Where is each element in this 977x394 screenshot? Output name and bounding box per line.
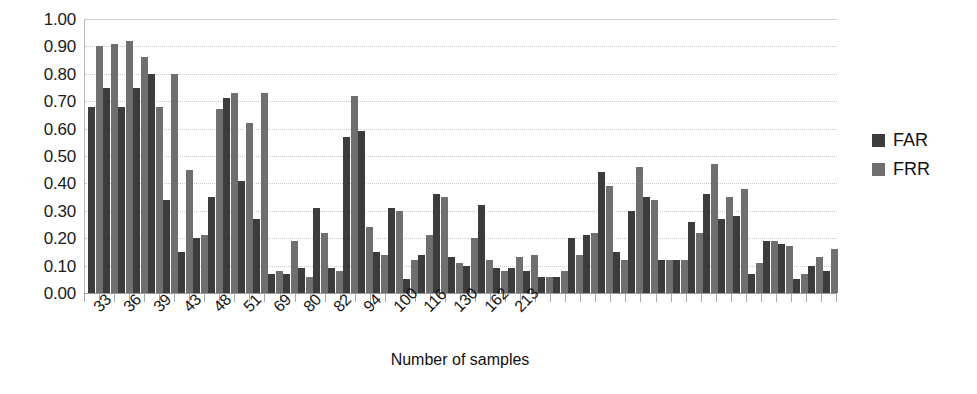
y-axis-tick-label: 0.60 [14, 120, 76, 137]
bar-frr [441, 197, 448, 293]
bar-group [343, 19, 358, 293]
bar-frr [801, 274, 808, 293]
bar-group [163, 19, 178, 293]
bar-far [718, 219, 725, 293]
bar-frr [111, 44, 118, 293]
legend-swatch-frr-icon [872, 163, 885, 176]
x-axis-tick [580, 294, 581, 302]
y-axis-tick-label: 0.40 [14, 175, 76, 192]
bar-group [733, 19, 748, 293]
x-axis-tick [761, 294, 762, 302]
bar-group [208, 19, 223, 293]
bar-group [463, 19, 478, 293]
bar-frr [321, 233, 328, 293]
bar-far [253, 219, 260, 293]
bar-group [193, 19, 208, 293]
bar-group [238, 19, 253, 293]
bar-far [148, 74, 155, 293]
x-axis-tick [821, 294, 822, 302]
x-axis-tick [144, 294, 145, 302]
bar-group [103, 19, 118, 293]
bar-frr [606, 186, 613, 293]
bar-frr [261, 93, 268, 293]
bar-group [523, 19, 538, 293]
bar-frr [381, 255, 388, 293]
bar-far [793, 279, 800, 293]
bar-frr [561, 271, 568, 293]
x-axis-tick [671, 294, 672, 302]
bar-far [763, 241, 770, 293]
bar-far [568, 238, 575, 293]
bar-group [763, 19, 778, 293]
bar-group [268, 19, 283, 293]
bar-group [418, 19, 433, 293]
bar-frr [636, 167, 643, 293]
x-axis-tick [385, 294, 386, 302]
bar-group [223, 19, 238, 293]
bar-frr [186, 170, 193, 293]
x-axis-tick [355, 294, 356, 302]
x-axis-tick [716, 294, 717, 302]
bar-group [613, 19, 628, 293]
bar-group [493, 19, 508, 293]
bar-group [298, 19, 313, 293]
bar-group [643, 19, 658, 293]
bar-frr [126, 41, 133, 293]
x-axis-tick [701, 294, 702, 302]
bar-group [448, 19, 463, 293]
x-axis-tick [610, 294, 611, 302]
bar-far [643, 197, 650, 293]
bar-group [433, 19, 448, 293]
bar-group [118, 19, 133, 293]
bar-far [598, 172, 605, 293]
bar-group [313, 19, 328, 293]
legend-item-frr: FRR [872, 160, 972, 178]
bar-far [613, 252, 620, 293]
bar-frr [426, 235, 433, 293]
bar-frr [156, 107, 163, 293]
x-axis-tick [595, 294, 596, 302]
bar-far [478, 205, 485, 293]
bar-group [328, 19, 343, 293]
y-axis-tick-label: 0.20 [14, 230, 76, 247]
bar-group [583, 19, 598, 293]
x-axis-labels: 33363943485169808294100116130162213 [84, 303, 836, 349]
bar-frr [786, 246, 793, 293]
bar-far [778, 244, 785, 293]
x-axis-tick [656, 294, 657, 302]
bar-group [688, 19, 703, 293]
bar-far [343, 137, 350, 293]
bar-far [553, 277, 560, 293]
bar-frr [396, 211, 403, 293]
bar-frr [621, 260, 628, 293]
x-axis-tick [174, 294, 175, 302]
bar-group [673, 19, 688, 293]
bar-far [733, 216, 740, 293]
bar-frr [471, 238, 478, 293]
bar-far [808, 266, 815, 293]
bar-frr [831, 249, 838, 293]
bar-frr [171, 74, 178, 293]
bar-frr [456, 263, 463, 293]
bar-frr [756, 263, 763, 293]
x-axis-tick [114, 294, 115, 302]
bar-frr [591, 233, 598, 293]
bar-far [313, 208, 320, 293]
bar-group [88, 19, 103, 293]
bar-group [148, 19, 163, 293]
bar-group [658, 19, 673, 293]
bar-group [358, 19, 373, 293]
bar-frr [771, 241, 778, 293]
bar-far [388, 208, 395, 293]
chart-legend: FAR FRR [872, 131, 972, 189]
x-axis-tick [731, 294, 732, 302]
bar-frr [741, 189, 748, 293]
bar-far [133, 88, 140, 294]
x-axis-tick [776, 294, 777, 302]
bar-frr [666, 260, 673, 293]
bar-group [403, 19, 418, 293]
bar-far [103, 88, 110, 294]
x-axis-tick [806, 294, 807, 302]
bar-group [703, 19, 718, 293]
bar-far [193, 238, 200, 293]
